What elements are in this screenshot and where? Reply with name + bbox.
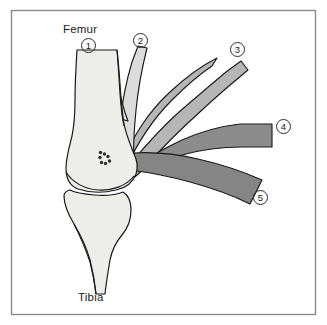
label-tibia: Tibia: [78, 292, 104, 304]
callout-1[interactable]: 1: [81, 38, 96, 53]
figure-root: Femur Tibia 1 2 3 4 5: [0, 0, 327, 325]
knee-joint-diagram: [0, 0, 327, 325]
callout-2[interactable]: 2: [133, 33, 148, 48]
callout-4[interactable]: 4: [276, 119, 291, 134]
callout-3[interactable]: 3: [230, 42, 245, 57]
label-femur: Femur: [63, 24, 97, 36]
callout-5[interactable]: 5: [253, 190, 268, 205]
